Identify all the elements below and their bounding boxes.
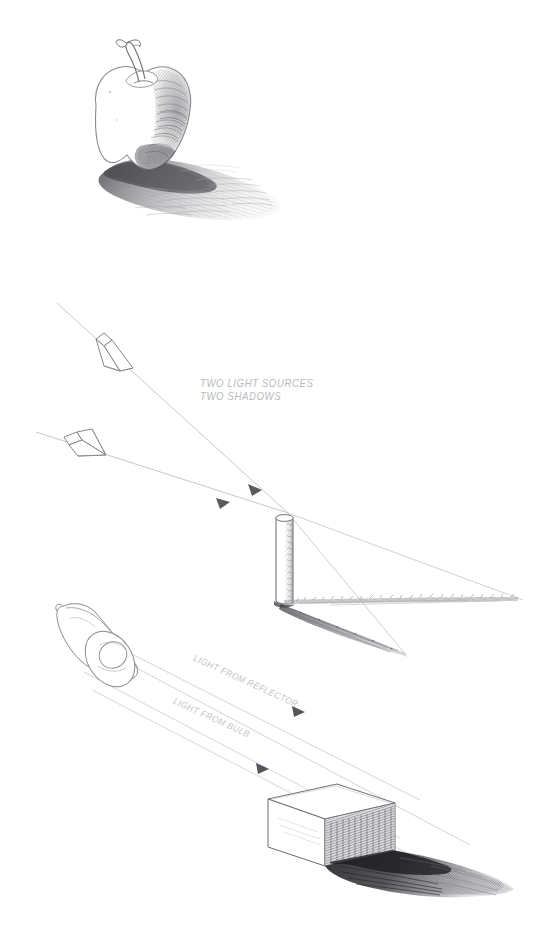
apple-body (95, 66, 190, 170)
apple-figure (95, 40, 279, 220)
light-direction-arrow-a (96, 333, 133, 371)
drawing-page: TWO LIGHT SOURCES TWO SHADOWS LIGHT FROM… (0, 0, 542, 943)
light-direction-arrow-b (64, 429, 106, 456)
cylinder-shadow-b (284, 594, 518, 605)
cylinder-object (276, 515, 294, 604)
pencil-drawing-artwork (0, 0, 542, 943)
lamp-figure (56, 604, 514, 898)
cylinder-shadow-a (279, 604, 408, 657)
cylinder-figure (36, 303, 523, 657)
apple-cast-shadow (99, 159, 280, 221)
reflector-lamp (56, 604, 145, 697)
